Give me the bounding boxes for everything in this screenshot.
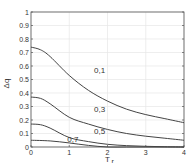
x-axis-label-subscript: r — [112, 158, 115, 163]
y-tick-label: 0.3 — [19, 103, 29, 110]
y-tick-label: 0.2 — [19, 117, 29, 124]
x-axis-label: T — [105, 155, 110, 163]
y-axis-label: Δq — [2, 79, 11, 89]
y-tick-label: 0.5 — [19, 76, 29, 83]
line-chart: 0123400.10.20.30.40.50.60.70.80.91TrΔq0,… — [0, 0, 195, 163]
y-tick-label: 0.4 — [19, 90, 29, 97]
curve-label: 0,5 — [94, 127, 106, 136]
y-tick-label: 0.8 — [19, 36, 29, 43]
y-tick-label: 0.1 — [19, 130, 29, 137]
y-tick-label: 0 — [25, 144, 29, 151]
y-tick-label: 0.7 — [19, 49, 29, 56]
curve-label: 0,3 — [94, 105, 106, 114]
curve-label: 0,7 — [67, 135, 79, 144]
y-tick-label: 1 — [25, 9, 29, 16]
curve-label: 0,1 — [94, 66, 106, 75]
x-tick-label: 3 — [144, 149, 148, 156]
x-tick-label: 4 — [182, 149, 186, 156]
y-tick-label: 0.6 — [19, 63, 29, 70]
y-tick-label: 0.9 — [19, 22, 29, 29]
x-tick-label: 0 — [29, 149, 33, 156]
x-tick-label: 1 — [67, 149, 71, 156]
